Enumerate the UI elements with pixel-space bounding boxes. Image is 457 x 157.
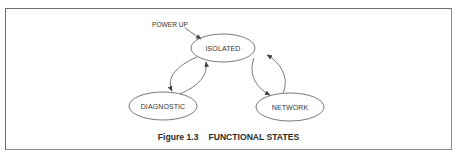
power-up-entry: POWER UP xyxy=(152,21,201,39)
isolated-label: ISOLATED xyxy=(206,45,241,52)
diagnostic-label: DIAGNOSTIC xyxy=(141,103,186,110)
transition-isolated-to-network xyxy=(252,58,270,95)
power-up-arrow xyxy=(185,28,201,39)
power-up-label: POWER UP xyxy=(152,21,189,28)
state-diagnostic: DIAGNOSTIC xyxy=(129,92,197,120)
state-network: NETWORK xyxy=(256,93,324,121)
transition-isolated-to-diagnostic xyxy=(170,57,197,91)
network-label: NETWORK xyxy=(272,104,309,111)
transition-network-to-isolated xyxy=(267,55,285,93)
figure-caption: Figure 1.3FUNCTIONAL STATES xyxy=(0,132,457,142)
figure-number: Figure 1.3 xyxy=(158,132,199,142)
figure-title: FUNCTIONAL STATES xyxy=(208,132,299,142)
transition-diagnostic-to-isolated xyxy=(180,62,206,94)
state-isolated: ISOLATED xyxy=(191,34,255,62)
